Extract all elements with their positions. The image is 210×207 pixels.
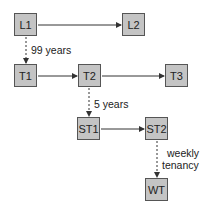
node-label: T3 bbox=[170, 70, 183, 82]
node-st1: ST1 bbox=[77, 117, 100, 140]
node-st2: ST2 bbox=[145, 117, 168, 140]
edge-label-weekly: weekly bbox=[167, 147, 199, 159]
node-t3: T3 bbox=[165, 64, 188, 87]
node-l1: L1 bbox=[14, 13, 37, 36]
node-t1: T1 bbox=[14, 64, 37, 87]
node-label: WT bbox=[148, 184, 165, 196]
lease-diagram: L1 L2 T1 T2 T3 ST1 ST2 WT 99 years 5 yea… bbox=[0, 0, 210, 207]
edge-label-99-years: 99 years bbox=[31, 44, 71, 56]
node-wt: WT bbox=[145, 178, 168, 201]
node-label: ST1 bbox=[78, 123, 98, 135]
node-label: T2 bbox=[83, 70, 96, 82]
edge-label-tenancy: tenancy bbox=[162, 159, 199, 171]
node-label: L2 bbox=[127, 19, 139, 31]
node-label: ST2 bbox=[146, 123, 166, 135]
node-l2: L2 bbox=[122, 13, 145, 36]
node-t2: T2 bbox=[78, 64, 101, 87]
node-label: L1 bbox=[19, 19, 31, 31]
edge-label-5-years: 5 years bbox=[94, 98, 128, 110]
node-label: T1 bbox=[19, 70, 32, 82]
